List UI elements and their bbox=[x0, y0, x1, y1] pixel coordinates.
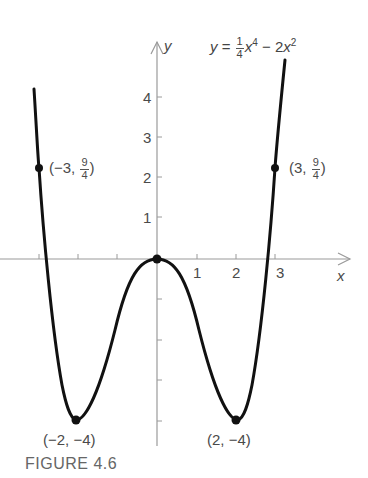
point-neg2-min bbox=[72, 416, 81, 425]
equation-exp2: 2 bbox=[291, 37, 297, 48]
equation-coefficient-fraction: 1 4 bbox=[236, 36, 244, 60]
fraction-denominator: 4 bbox=[312, 170, 320, 182]
x-tick-label: 2 bbox=[232, 265, 240, 280]
x-tick-label: 3 bbox=[276, 265, 284, 280]
fraction-numerator: 9 bbox=[80, 157, 88, 170]
y-tick-label: 4 bbox=[143, 90, 151, 105]
y-tick-label: 2 bbox=[143, 170, 151, 185]
fraction-denominator: 4 bbox=[80, 170, 88, 182]
fraction-numerator: 9 bbox=[312, 157, 320, 170]
function-curve bbox=[34, 60, 285, 420]
y-axis bbox=[151, 42, 163, 446]
point-pos3 bbox=[271, 164, 279, 172]
fraction-denominator: 4 bbox=[236, 49, 244, 61]
point-pos2-min bbox=[232, 416, 241, 425]
function-plot bbox=[0, 0, 368, 478]
point-label-fraction: 94 bbox=[80, 157, 88, 181]
point-origin bbox=[153, 255, 162, 264]
equation-exp1: 4 bbox=[252, 37, 258, 48]
point-label-prefix: (−3, bbox=[49, 159, 79, 176]
equation-var2: x bbox=[283, 38, 291, 55]
fraction-numerator: 1 bbox=[236, 36, 244, 49]
x-axis bbox=[0, 253, 350, 265]
point-label-pos3: (3, 94) bbox=[289, 157, 326, 181]
point-label-pos2: (2, −4) bbox=[207, 432, 251, 447]
point-label-fraction: 94 bbox=[312, 157, 320, 181]
equation-minus: − bbox=[262, 38, 271, 55]
figure-caption: FIGURE 4.6 bbox=[25, 455, 117, 473]
x-tick-label: 1 bbox=[193, 265, 201, 280]
point-label-suffix: ) bbox=[321, 159, 326, 176]
y-axis-label: y bbox=[164, 38, 172, 53]
point-label-suffix: ) bbox=[90, 159, 95, 176]
point-label-neg3: (−3, 94) bbox=[49, 157, 95, 181]
y-tick-label: 1 bbox=[143, 210, 151, 225]
point-label-prefix: (3, bbox=[289, 159, 311, 176]
x-axis-label: x bbox=[337, 268, 345, 283]
y-tick-label: 3 bbox=[143, 130, 151, 145]
equation-equals: = bbox=[222, 38, 231, 55]
equation-lhs: y bbox=[210, 38, 218, 55]
point-label-neg2: (−2, −4) bbox=[43, 432, 96, 447]
point-neg3 bbox=[35, 164, 43, 172]
function-equation: y = 1 4 x4 − 2x2 bbox=[210, 36, 296, 60]
equation-coef2: 2 bbox=[275, 38, 283, 55]
